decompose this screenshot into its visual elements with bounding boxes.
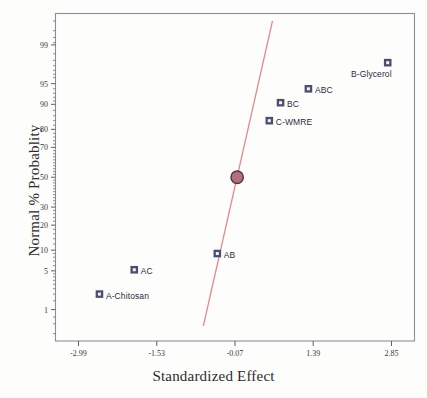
data-point-marker-center [133, 268, 136, 271]
x-axis-tick-label: 1.39 [306, 349, 320, 358]
y-axis-title: Normal % Probablity [26, 71, 43, 311]
data-point-label: AB [224, 250, 236, 260]
x-axis-tick-label: -1.53 [148, 349, 165, 358]
x-axis-ticks [79, 341, 392, 346]
data-point-label: A-Chitosan [106, 291, 149, 301]
normal-probability-plot-figure: 99959080705030201051-2.99-1.53-0.071.392… [0, 0, 427, 398]
y-axis-ticks [51, 21, 56, 334]
x-axis-tick-label: 2.85 [384, 349, 398, 358]
data-point-label: AC [141, 266, 153, 276]
data-point-marker-center [268, 119, 271, 122]
plot-canvas [0, 0, 427, 398]
data-point-marker-center [386, 61, 389, 64]
data-point-label: C-WMRE [276, 117, 312, 127]
x-axis-tick-label: -0.07 [227, 349, 244, 358]
data-point-marker-center [216, 252, 219, 255]
data-point-label: B-Glycerol [351, 69, 392, 79]
x-axis-tick-label: -2.99 [70, 349, 87, 358]
data-point-marker-center [98, 293, 101, 296]
data-point-label: BC [287, 99, 299, 109]
data-point-markers [96, 59, 392, 298]
x-axis-title: Standardized Effect [0, 368, 427, 385]
y-axis-tick-label: 99 [18, 40, 48, 49]
data-point-marker-center [279, 101, 282, 104]
median-reference-marker [231, 171, 243, 183]
data-point-marker-center [307, 87, 310, 90]
data-point-label: ABC [315, 85, 333, 95]
